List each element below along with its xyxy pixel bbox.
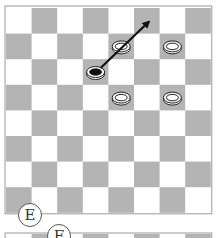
dark-square xyxy=(83,162,109,188)
white-piece xyxy=(163,41,181,54)
dark-square xyxy=(134,110,160,136)
dark-square xyxy=(185,110,211,136)
dark-square xyxy=(134,8,160,34)
board-panel-f-top-edge xyxy=(5,233,212,238)
dark-square xyxy=(57,136,83,162)
dark-square xyxy=(6,136,32,162)
dark-square xyxy=(57,187,83,213)
dark-square xyxy=(160,187,186,213)
dark-square xyxy=(185,162,211,188)
dark-square xyxy=(32,59,58,85)
black-piece xyxy=(87,67,105,80)
dark-square xyxy=(185,59,211,85)
dark-square xyxy=(32,110,58,136)
white-piece xyxy=(112,92,130,105)
dark-square xyxy=(134,59,160,85)
dark-square xyxy=(57,85,83,111)
dark-square xyxy=(108,187,134,213)
dark-square xyxy=(6,85,32,111)
white-piece xyxy=(163,92,181,105)
board-panel-e xyxy=(5,6,212,214)
dark-square xyxy=(185,8,211,34)
dark-square xyxy=(160,136,186,162)
dark-square xyxy=(134,162,160,188)
panel-label-e: E xyxy=(18,203,42,227)
dark-square xyxy=(57,34,83,60)
dark-square xyxy=(83,8,109,34)
dark-square xyxy=(83,110,109,136)
dark-square xyxy=(32,8,58,34)
dark-square xyxy=(108,136,134,162)
dark-square xyxy=(6,34,32,60)
dark-square xyxy=(32,162,58,188)
